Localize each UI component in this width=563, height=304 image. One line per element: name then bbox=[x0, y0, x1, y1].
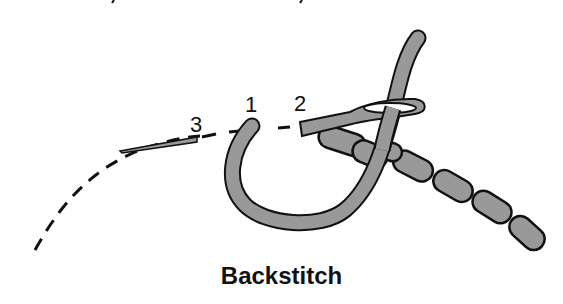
label-1: 1 bbox=[245, 92, 257, 117]
backstitch-diagram: 3 1 2 bbox=[0, 0, 563, 304]
dash-segment-3-1 bbox=[202, 134, 216, 137]
completed-stitch-left bbox=[120, 137, 197, 153]
dash-segment-1-2 bbox=[278, 127, 290, 128]
label-3: 3 bbox=[190, 112, 202, 137]
figure-caption: Backstitch bbox=[0, 262, 563, 290]
completed-stitches-chain bbox=[316, 123, 549, 254]
needle bbox=[300, 99, 425, 136]
dashed-stitch-path bbox=[35, 136, 200, 250]
top-crop-marks bbox=[112, 0, 302, 3]
label-2: 2 bbox=[294, 91, 306, 116]
